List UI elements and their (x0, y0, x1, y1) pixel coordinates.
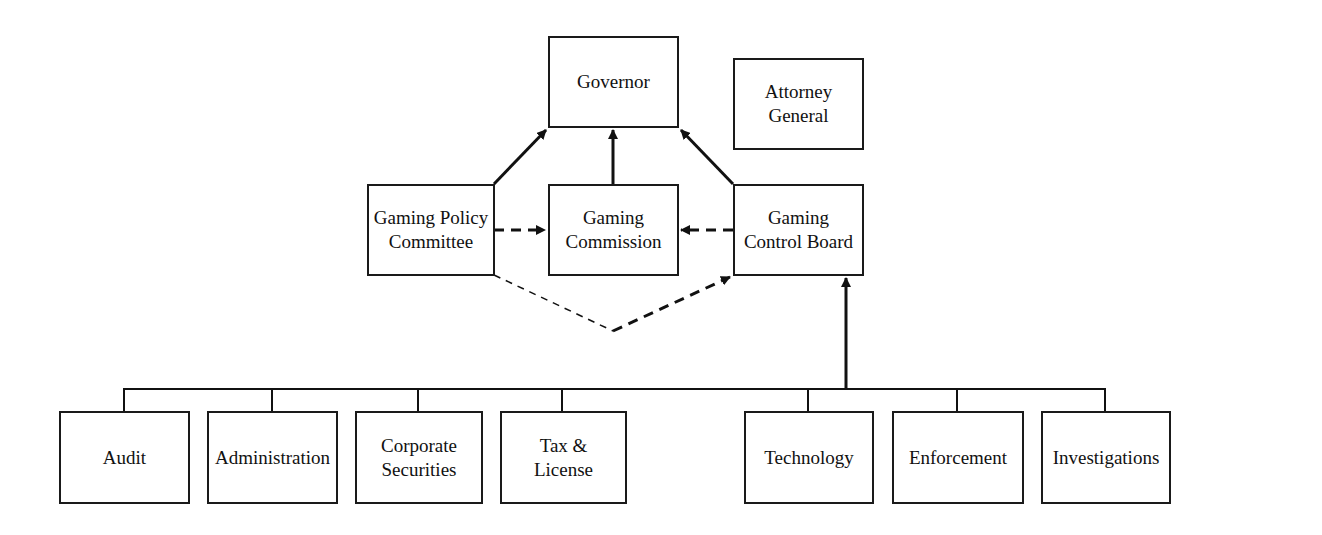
node-administration: Administration (207, 411, 338, 504)
node-attorney-general: Attorney General (733, 58, 864, 150)
node-investigations: Investigations (1041, 411, 1171, 504)
node-gaming-control-board: Gaming Control Board (733, 184, 864, 276)
edge-gpc-governor (494, 130, 546, 184)
node-governor: Governor (548, 36, 679, 128)
edge-gcb-governor (681, 130, 733, 184)
node-tax-license: Tax & License (500, 411, 627, 504)
node-corporate-securities: Corporate Securities (355, 411, 483, 504)
edge-v-gcb (613, 277, 730, 331)
node-technology: Technology (744, 411, 874, 504)
node-audit: Audit (59, 411, 190, 504)
node-gaming-commission: Gaming Commission (548, 184, 679, 276)
edge-gpc-v (494, 275, 613, 331)
node-enforcement: Enforcement (892, 411, 1024, 504)
node-gaming-policy-committee: Gaming Policy Committee (367, 184, 495, 276)
